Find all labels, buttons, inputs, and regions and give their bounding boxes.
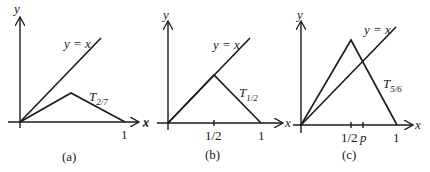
- x-axis-label: x: [284, 115, 291, 130]
- tick-label-half: 1/2: [341, 130, 358, 145]
- y-axis-label: y: [12, 1, 20, 16]
- tent-map-figure: y x y = x T2/7 1 (a) y x x y = x T1/2 1/…: [0, 0, 430, 172]
- tick-label-1: 1: [258, 128, 265, 143]
- tick-label-p: p: [359, 130, 367, 145]
- tick-label-half: 1/2: [205, 128, 222, 143]
- x-axis-label-left: x: [142, 115, 149, 130]
- tent-map-curve: [20, 93, 125, 122]
- tick-label-1: 1: [393, 130, 400, 145]
- tick-label-1: 1: [121, 127, 128, 142]
- panel-caption: (a): [62, 149, 76, 164]
- y-axis-label: y: [161, 7, 169, 22]
- panel-a: y x y = x T2/7 1 (a): [8, 1, 149, 164]
- panel-c: y x y = x T5/6 1/2 p 1 (c): [293, 7, 421, 162]
- y-axis-label: y: [295, 7, 303, 22]
- diagonal-line: [301, 27, 396, 125]
- diagonal-label: y = x: [62, 36, 91, 51]
- panel-caption: (c): [342, 147, 356, 162]
- diagonal-label: y = x: [211, 37, 240, 52]
- diagonal-label: y = x: [362, 22, 391, 37]
- panel-caption: (b): [205, 147, 220, 162]
- tent-label: T1/2: [239, 85, 258, 103]
- x-axis-label: x: [414, 117, 421, 132]
- panel-b: y x x y = x T1/2 1/2 1 (b): [142, 7, 291, 162]
- tent-label: T5/6: [383, 76, 402, 94]
